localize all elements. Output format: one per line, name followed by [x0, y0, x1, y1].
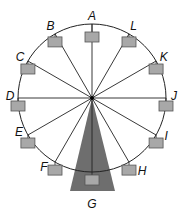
gondola-i	[149, 138, 163, 148]
hub	[90, 96, 94, 100]
label-f: F	[40, 160, 48, 174]
label-a: A	[87, 9, 96, 23]
spoke-k	[92, 61, 156, 98]
label-e: E	[15, 125, 24, 139]
gondola-a	[85, 32, 99, 42]
gondola-l	[122, 37, 136, 47]
ferris-wheel-diagram: ABCDEFGHIJKL	[0, 0, 181, 214]
spoke-c	[28, 61, 92, 98]
spoke-e	[28, 98, 92, 135]
gondola-g	[85, 175, 99, 185]
label-b: B	[46, 19, 54, 33]
gondola-e	[21, 138, 35, 148]
label-c: C	[16, 50, 25, 64]
label-d: D	[6, 89, 15, 103]
gondola-k	[149, 64, 163, 74]
gondola-h	[122, 165, 136, 175]
label-g: G	[87, 197, 96, 211]
gondola-b	[48, 37, 62, 47]
gondola-f	[48, 165, 62, 175]
label-j: J	[170, 89, 178, 103]
label-l: L	[130, 19, 137, 33]
label-h: H	[138, 164, 147, 178]
label-k: K	[160, 50, 169, 64]
label-i: I	[164, 129, 168, 143]
gondola-c	[21, 64, 35, 74]
spoke-i	[92, 98, 156, 135]
